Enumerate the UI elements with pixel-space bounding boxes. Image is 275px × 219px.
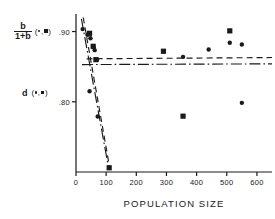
fit-line-dashdot-horizontal bbox=[82, 64, 272, 65]
fraction-denominator: 1+b bbox=[14, 32, 32, 41]
data-point-circle bbox=[80, 27, 84, 31]
data-point-square bbox=[180, 114, 185, 119]
data-point-circle bbox=[240, 101, 244, 105]
fit-line-dashed-horizontal bbox=[87, 58, 272, 59]
x-tick-label: 300 bbox=[160, 178, 173, 187]
data-point-square bbox=[227, 28, 232, 33]
data-point-square bbox=[91, 44, 96, 49]
square-marker-icon bbox=[41, 91, 45, 95]
data-point-circle bbox=[206, 47, 210, 51]
x-tick-label: 500 bbox=[220, 178, 233, 187]
data-point-circle bbox=[181, 55, 185, 59]
data-point-circle bbox=[96, 114, 100, 118]
y-axis-label-death-rate: d (,) bbox=[22, 88, 48, 98]
data-point-circle bbox=[87, 89, 91, 93]
y-tick-label: .80 bbox=[59, 98, 70, 107]
x-tick-group: 0100200300400500600 bbox=[74, 172, 264, 187]
y-axis-secondary-text: d bbox=[22, 88, 28, 98]
y-axis-primary-symbols: (,) bbox=[35, 27, 51, 37]
x-tick-label: 0 bbox=[74, 178, 78, 187]
y-axis-label-birth-rate: b 1+b (,) bbox=[14, 22, 76, 41]
x-tick-label: 400 bbox=[190, 178, 203, 187]
x-tick-label: 600 bbox=[250, 178, 263, 187]
data-point-square bbox=[161, 49, 166, 54]
data-point-square bbox=[93, 57, 98, 62]
data-point-circle bbox=[88, 36, 92, 40]
fit-line-dashed-descending bbox=[83, 18, 110, 169]
data-point-circle bbox=[228, 41, 232, 45]
fraction-numerator: b bbox=[18, 22, 28, 31]
x-tick-label: 100 bbox=[99, 178, 112, 187]
data-point-square bbox=[87, 31, 92, 36]
fraction-b-over-1-plus-b: b 1+b bbox=[14, 22, 32, 41]
data-point-square bbox=[107, 165, 112, 170]
x-tick-label: 200 bbox=[130, 178, 143, 187]
x-axis-title: POPULATION SIZE bbox=[124, 198, 225, 209]
y-axis-secondary-symbols: (,) bbox=[32, 88, 48, 98]
fit-line-dashdot-descending bbox=[81, 19, 108, 168]
data-point-circle bbox=[240, 42, 244, 46]
scatter-chart-figure: b 1+b (,) d (,) .90.80 01002003004005006… bbox=[0, 0, 275, 219]
fit-line-group bbox=[81, 18, 272, 169]
